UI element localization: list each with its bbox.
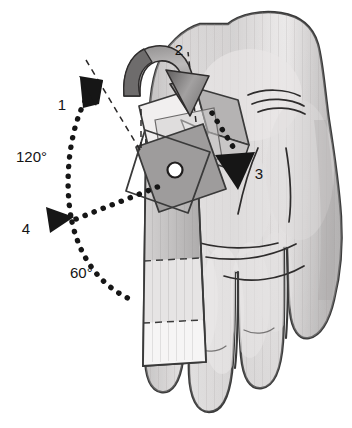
- dotted-arc-upper: [68, 101, 85, 217]
- curved-arrow-underside: [124, 49, 152, 96]
- label-step-3: 3: [255, 165, 263, 182]
- label-angle-120: 120°: [16, 148, 47, 165]
- figure-canvas: 1 2 3 4 120° 60°: [0, 0, 352, 428]
- label-angle-60: 60°: [70, 264, 93, 281]
- label-step-1: 1: [58, 96, 66, 113]
- label-step-2: 2: [175, 41, 183, 58]
- orthopedic-splint-illustration: 1 2 3 4 120° 60°: [0, 0, 352, 428]
- arrowhead-step-4: [46, 207, 74, 233]
- pivot-rivet: [168, 163, 183, 178]
- label-step-4: 4: [22, 220, 30, 237]
- dotted-arc-lower: [72, 222, 132, 300]
